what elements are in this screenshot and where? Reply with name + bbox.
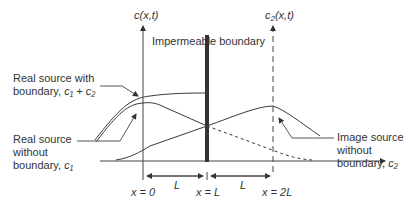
leader-real-with-boundary: [100, 86, 138, 96]
tick-x0: x = 0: [131, 186, 155, 199]
tick-x2L: x = 2L: [262, 186, 292, 199]
tick-xL: x = L: [196, 186, 220, 199]
annotation-real-with-boundary: Real source with boundary, c₁ + c₂: [13, 72, 95, 98]
interval-label-1: L: [174, 179, 180, 192]
leader-image-source: [279, 118, 334, 138]
c2-axis-label: c2(x,t): [265, 9, 294, 22]
impermeable-boundary: [205, 35, 209, 162]
curve-real-without-boundary: [96, 103, 207, 142]
curve-real-dashed: [207, 126, 312, 160]
annotation-image-source: Image source without boundary, c₂: [337, 131, 404, 170]
curve-real-with-boundary: [95, 93, 207, 140]
interval-label-2: L: [240, 179, 246, 192]
leader-real-without-boundary: [77, 114, 136, 141]
annotation-real-without-boundary: Real source without boundary, c₁: [13, 133, 73, 172]
c-axis-label: c(x,t): [134, 9, 158, 22]
boundary-title: Impermeable boundary: [152, 35, 265, 48]
curve-image-source: [116, 106, 320, 160]
